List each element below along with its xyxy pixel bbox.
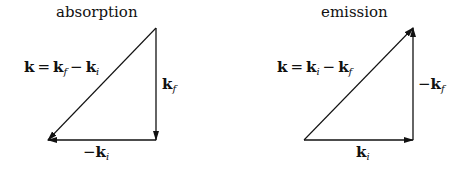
subscript: i (96, 66, 99, 77)
absorption-vertical-label: kf (162, 75, 176, 94)
k-symbol: k (53, 58, 63, 76)
subscript: i (106, 151, 109, 162)
k-symbol: k (24, 58, 34, 76)
absorption-horizontal-label: −ki (83, 143, 109, 162)
k-symbol: k (162, 75, 172, 93)
k-symbol: k (338, 58, 348, 76)
emission-title: emission (321, 3, 388, 21)
k-symbol: k (96, 143, 106, 161)
minus-sign: − (83, 143, 96, 161)
vector-triangles (0, 0, 467, 169)
subscript: f (441, 83, 445, 94)
absorption-title: absorption (56, 3, 138, 21)
equals-sign: = (287, 58, 306, 76)
equals-sign: = (34, 58, 53, 76)
k-symbol: k (277, 58, 287, 76)
subscript: f (172, 83, 176, 94)
minus-sign: − (320, 58, 339, 76)
minus-sign: − (418, 75, 431, 93)
wavevector-diagram: absorption k=kf−ki kf −ki emission k=ki−… (0, 0, 467, 169)
subscript: i (366, 151, 369, 162)
minus-sign: − (67, 58, 86, 76)
emission-k-arrow (304, 28, 413, 140)
emission-horizontal-label: ki (356, 143, 370, 162)
emission-diagonal-label: k=ki−kf (277, 58, 352, 77)
k-symbol: k (356, 143, 366, 161)
emission-triangle (304, 28, 413, 140)
emission-vertical-label: −kf (418, 75, 445, 94)
absorption-diagonal-label: k=kf−ki (24, 58, 99, 77)
k-symbol: k (86, 58, 96, 76)
subscript: f (349, 66, 353, 77)
k-symbol: k (431, 75, 441, 93)
absorption-triangle (48, 28, 156, 140)
k-symbol: k (306, 58, 316, 76)
absorption-k-arrow (48, 28, 156, 140)
